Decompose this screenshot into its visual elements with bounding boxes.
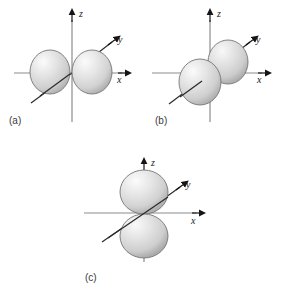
axis-label-x: x	[190, 215, 196, 226]
panel-b-py-orbital: z y x	[144, 0, 288, 150]
axis-label-z: z	[78, 8, 83, 19]
axis-label-z: z	[216, 8, 221, 19]
panel-a-px-orbital: z y x	[0, 0, 144, 150]
axis-label-x: x	[116, 74, 122, 85]
axis-label-y: y	[117, 34, 123, 45]
caption-c: (c)	[85, 272, 97, 283]
orbital-lobe-negative-x	[30, 50, 70, 94]
orbital-lobe-negative-z	[120, 214, 168, 258]
orbital-figure: z y x	[0, 0, 288, 301]
axis-label-x: x	[256, 74, 262, 85]
axis-label-z: z	[150, 157, 155, 168]
axis-label-y: y	[255, 34, 261, 45]
caption-a: (a)	[9, 115, 21, 126]
orbital-lobe-positive-z	[120, 170, 168, 214]
caption-b: (b)	[155, 115, 167, 126]
axis-label-y: y	[185, 179, 191, 190]
orbital-lobe-positive-x	[72, 50, 112, 94]
